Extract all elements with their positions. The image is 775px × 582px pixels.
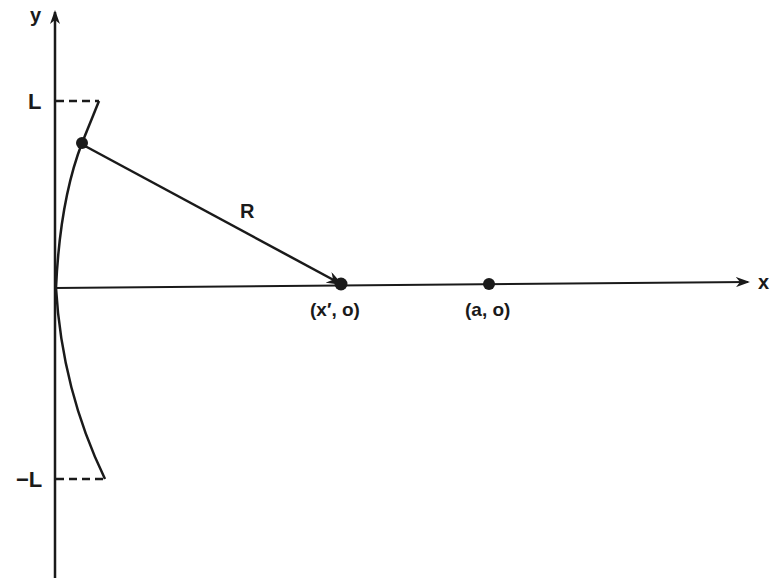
arc-curve-upper <box>56 143 82 288</box>
x-axis-label: x <box>758 271 769 293</box>
source-point <box>335 278 348 291</box>
source-point-label: (x′, o) <box>310 299 360 320</box>
r-label: R <box>240 200 255 222</box>
y-axis-label: y <box>30 4 42 26</box>
tick-label-L: L <box>28 89 41 114</box>
r-vector <box>85 146 341 284</box>
diagram-canvas: y x L −L R (x′, o) (a, o) <box>0 0 775 582</box>
field-point-label: (a, o) <box>465 299 510 320</box>
segment-to-L <box>82 101 99 143</box>
x-axis <box>55 282 748 288</box>
point-on-arc <box>76 137 88 149</box>
tick-label-minus-L: −L <box>16 467 42 492</box>
field-point <box>483 278 495 290</box>
arc-curve-lower <box>56 288 105 479</box>
